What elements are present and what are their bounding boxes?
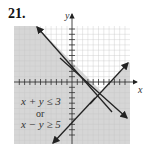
x-axis-label: x xyxy=(138,84,142,95)
y-axis-label: y xyxy=(65,10,69,21)
inequality-2: x − y ≥ 5 xyxy=(21,119,61,130)
inequality-1: x + y ≤ 3 xyxy=(21,96,61,107)
inequality-graph xyxy=(0,0,150,156)
